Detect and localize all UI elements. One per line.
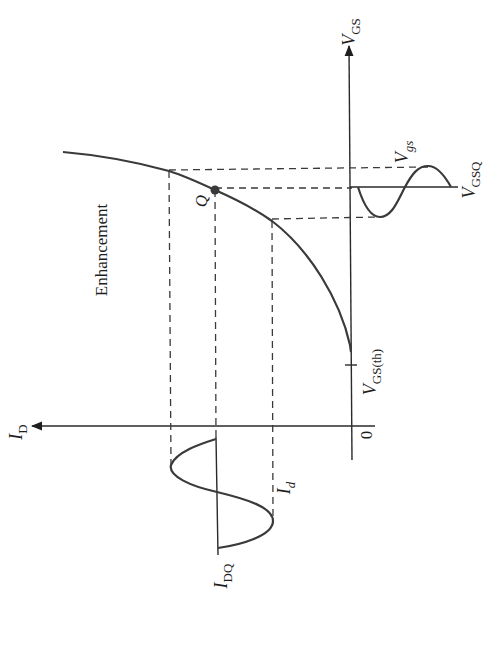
id-signal-label: Id <box>274 481 298 495</box>
idq-subscript: DQ <box>220 563 235 582</box>
idq-label: IDQ <box>211 563 235 589</box>
vgsq-subscript: GSQ <box>468 161 483 188</box>
vgs-signal-subscript: gs <box>401 141 416 153</box>
enhancement-label: Enhancement <box>92 203 111 296</box>
vgs-th-subscript: GS(th) <box>369 349 384 384</box>
dash-q-v <box>215 190 216 440</box>
id-axis-label: ID <box>6 424 30 440</box>
q-point-label: Q <box>192 195 211 207</box>
dash-lower-v <box>272 221 273 518</box>
vgs-signal-label: Vgs <box>392 141 416 164</box>
dash-lower-h <box>272 217 378 219</box>
id-signal-subscript: d <box>283 481 298 488</box>
idq-baseline <box>216 437 218 555</box>
vgs-axis-subscript: GS <box>348 18 363 35</box>
dash-upper-h <box>169 167 428 170</box>
vgsq-label: VGSQ <box>459 161 483 199</box>
transfer-characteristic-diagram: Enhancement ID VGS 0 VGS(th) Q VGSQ Vgs … <box>0 0 499 662</box>
origin-label: 0 <box>357 431 376 440</box>
vgs-axis <box>349 46 352 460</box>
id-sine <box>171 439 273 548</box>
id-axis-subscript: D <box>15 424 30 433</box>
vgs-sine <box>358 166 451 217</box>
dash-upper-v <box>169 171 171 465</box>
vgs-axis-label: VGS <box>339 18 363 46</box>
vgs-th-label: VGS(th) <box>360 349 384 395</box>
